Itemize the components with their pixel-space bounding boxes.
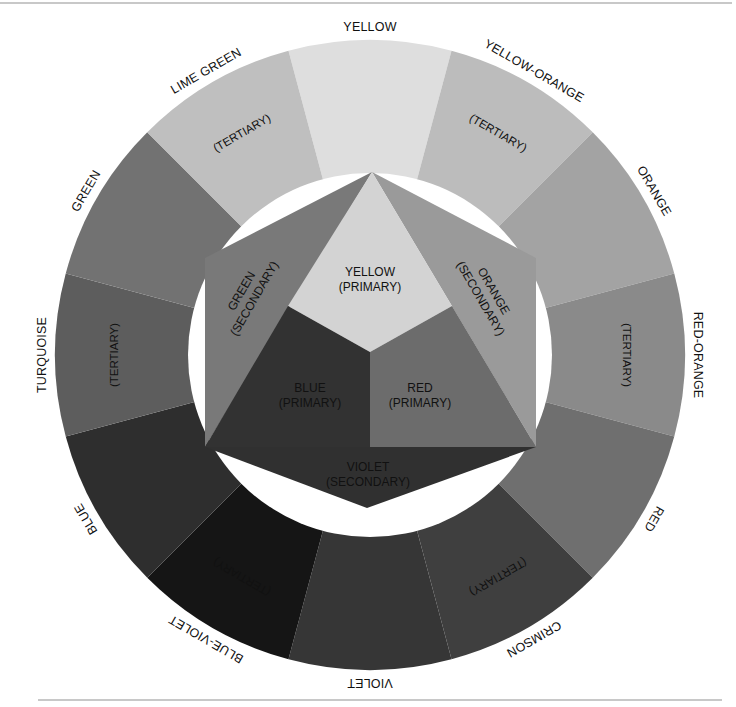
blue-primary-name: BLUE xyxy=(294,381,325,395)
blue-primary-type: (PRIMARY) xyxy=(279,396,341,410)
outer-label-yellow: YELLOW xyxy=(343,20,396,34)
violet-secondary-type: (SECONDARY) xyxy=(326,475,410,489)
yellow-primary-name: YELLOW xyxy=(345,265,396,279)
tertiary-label-turquoise: (TERTIARY) xyxy=(108,323,120,387)
violet-secondary-name: VIOLET xyxy=(347,460,390,474)
red-primary-name: RED xyxy=(407,381,433,395)
outer-label-red-orange: RED-ORANGE xyxy=(691,312,705,399)
color-wheel: YELLOW (PRIMARY) RED (PRIMARY) BLUE (PRI… xyxy=(0,0,736,707)
yellow-primary-type: (PRIMARY) xyxy=(339,280,401,294)
outer-label-turquoise: TURQUOISE xyxy=(35,317,49,393)
outer-label-violet: VIOLET xyxy=(347,676,393,690)
tertiary-label-red-orange: (TERTIARY) xyxy=(621,323,633,387)
red-primary-type: (PRIMARY) xyxy=(389,396,451,410)
